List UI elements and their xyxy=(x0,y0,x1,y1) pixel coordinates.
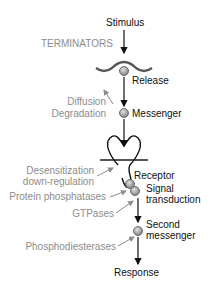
protein-phosphatases-label: Protein phosphatases xyxy=(9,191,106,202)
phosphodiesterases-label: Phosphodiesterases xyxy=(25,241,116,252)
desensitization-label: Desensitization xyxy=(26,165,94,176)
stimulus-label: Stimulus xyxy=(106,17,144,28)
messenger-label: Messenger xyxy=(132,108,181,119)
desensitization-arrow xyxy=(97,168,113,176)
second-label: Second xyxy=(146,219,180,230)
second-messenger-node xyxy=(134,227,143,236)
terminators-heading: TERMINATORS xyxy=(41,38,113,49)
messenger-node xyxy=(120,109,129,118)
phosphatases-arrow xyxy=(110,191,126,197)
second-messenger-label: messenger xyxy=(146,230,195,241)
gtpases-label: GTPases xyxy=(72,208,114,219)
release-label: Release xyxy=(132,75,169,86)
diffusion-label: Diffusion xyxy=(67,96,106,107)
gtpases-arrow xyxy=(116,201,133,213)
signal-label: Signal xyxy=(146,183,174,194)
release-node xyxy=(120,67,129,76)
receptor-label: Receptor xyxy=(134,170,175,181)
transduction-node xyxy=(131,187,140,196)
response-label: Response xyxy=(114,267,159,278)
down-regulation-label: down-regulation xyxy=(23,176,94,187)
transduction-label: transduction xyxy=(146,194,200,205)
phosphodiesterases-arrow xyxy=(118,237,134,246)
degradation-label: Degradation xyxy=(52,108,106,119)
